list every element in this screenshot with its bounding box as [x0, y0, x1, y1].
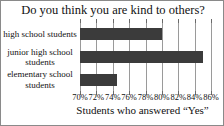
category-label: high school students: [3, 29, 77, 40]
bar: [80, 28, 162, 40]
bar-row: [80, 23, 211, 46]
category-label: junior high school students: [3, 47, 77, 68]
plot-area: [80, 23, 211, 91]
x-axis-tick-label: 86%: [198, 92, 224, 102]
x-axis-tick-mark: [211, 19, 212, 23]
bar: [80, 51, 203, 63]
gridline: [211, 23, 212, 91]
category-label: elementary school students: [3, 69, 77, 90]
bar-row: [80, 46, 211, 69]
chart-title: Do you think you are kind to others?: [1, 2, 224, 18]
x-axis-title: Students who answered “Yes”: [61, 103, 224, 117]
bar: [80, 74, 117, 86]
bar-row: [80, 68, 211, 91]
chart-container: Do you think you are kind to others? hig…: [0, 0, 224, 126]
